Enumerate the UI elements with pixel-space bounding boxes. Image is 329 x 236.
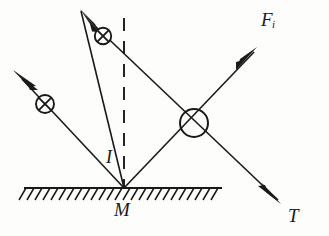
- arrowhead-icon-T: [258, 183, 281, 204]
- label-force-F: Fi: [261, 10, 275, 30]
- arrowhead-icon-F: [236, 47, 257, 70]
- ray-lower-incident: [13, 70, 124, 188]
- ray-diagram-figure: Fi T M I: [0, 0, 329, 236]
- diagram-canvas: [0, 0, 329, 236]
- arrowhead-icon-left: [13, 70, 38, 90]
- polarization-marker-crossing: [180, 109, 208, 137]
- label-ray-T: T: [288, 206, 299, 225]
- label-force-F-subscript: i: [272, 18, 275, 30]
- label-normal-I: I: [106, 148, 112, 166]
- polarization-marker-upper: [95, 28, 111, 44]
- ray-reflected-to-F: [124, 47, 257, 188]
- polarization-marker-lower: [36, 95, 54, 113]
- label-force-F-base: F: [261, 9, 272, 30]
- label-point-M: M: [114, 200, 130, 219]
